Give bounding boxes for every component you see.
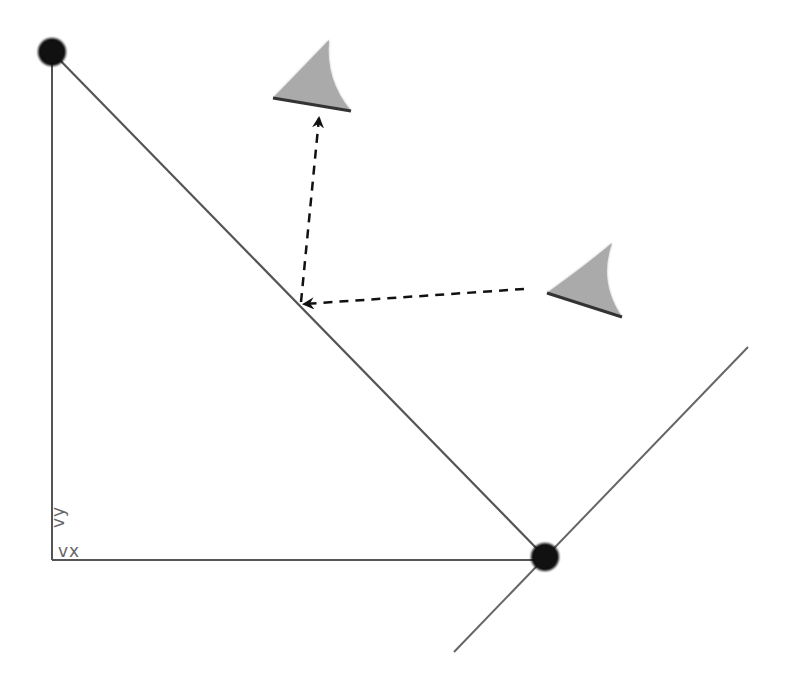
top-left-node: [38, 38, 66, 66]
diagram-canvas: vy vx: [0, 0, 786, 694]
vx-label: vx: [58, 541, 80, 561]
diagram-svg: vy vx: [0, 0, 786, 694]
arrow-to-line-point: [304, 289, 524, 304]
right-marker-icon: [547, 243, 622, 317]
arrow-to-upper-marker: [301, 118, 319, 302]
crossing-line: [454, 347, 748, 652]
hypotenuse-line: [52, 52, 545, 557]
bottom-right-node: [531, 543, 559, 571]
upper-marker-icon: [273, 40, 351, 111]
vy-label: vy: [48, 506, 68, 528]
